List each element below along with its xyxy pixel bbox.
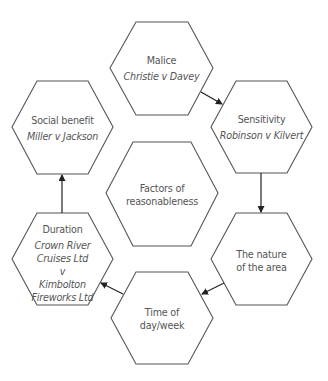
arrow-nature-to-time: [202, 283, 224, 294]
label-malice: Malice Christie v Davey: [110, 54, 213, 83]
case-name-line3: v: [12, 265, 113, 278]
factor-title: Social benefit: [12, 114, 113, 127]
factor-title: Malice: [110, 54, 213, 67]
center-title-line1: Factors of: [106, 182, 218, 195]
label-time-of-day: Time of day/week: [111, 306, 213, 332]
label-sensitivity: Sensitivity Robinson v Kilvert: [209, 113, 314, 142]
factor-title-line1: Time of: [111, 306, 213, 319]
factor-title-line2: day/week: [111, 319, 213, 332]
factor-title-line2: of the area: [211, 261, 312, 274]
reasonableness-diagram: Malice Christie v Davey Sensitivity Robi…: [0, 0, 328, 381]
label-duration: Duration Crown River Cruises Ltd v Kimbo…: [12, 223, 113, 304]
case-name-line2: Cruises Ltd: [12, 252, 113, 265]
label-center: Factors of reasonableness: [106, 182, 218, 208]
factor-title-line1: The nature: [211, 248, 312, 261]
factor-title: Duration: [12, 223, 113, 236]
case-name-line1: Crown River: [12, 239, 113, 252]
arrow-malice-to-sensitivity: [201, 92, 222, 104]
case-name-line5: Fireworks Ltd: [12, 291, 113, 304]
case-name: Robinson v Kilvert: [209, 129, 314, 142]
case-name: Christie v Davey: [110, 70, 213, 83]
factor-title: Sensitivity: [209, 113, 314, 126]
label-social-benefit: Social benefit Miller v Jackson: [12, 114, 113, 143]
case-name: Miller v Jackson: [12, 130, 113, 143]
case-name-line4: Kimbolton: [12, 278, 113, 291]
label-nature-of-area: The nature of the area: [211, 248, 312, 274]
center-title-line2: reasonableness: [106, 195, 218, 208]
